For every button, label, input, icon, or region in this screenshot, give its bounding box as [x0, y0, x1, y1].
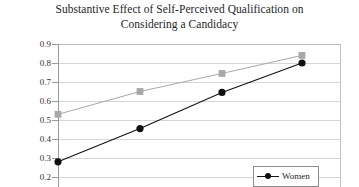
y-axis-label-0-4: 0.4	[11, 135, 51, 144]
legend-entry-women: Women	[257, 170, 310, 182]
y-axis-line	[58, 44, 59, 187]
gridline-0-5	[58, 120, 340, 121]
gridline-0-8	[58, 63, 340, 64]
y-tick-0-7	[52, 82, 58, 83]
y-axis-label-0-3: 0.3	[11, 154, 51, 163]
data-point	[219, 70, 226, 77]
data-point	[218, 89, 225, 96]
series-line-0	[58, 55, 302, 114]
y-axis-label-0-8: 0.8	[11, 59, 51, 68]
data-point	[299, 52, 306, 59]
gridline-0-7	[58, 82, 340, 83]
gridline-0-4	[58, 139, 340, 140]
data-point	[137, 88, 144, 95]
y-axis-label-0-6: 0.6	[11, 97, 51, 106]
gridline-0-9	[58, 44, 340, 45]
y-axis-label-0-9: 0.9	[11, 40, 51, 49]
y-tick-0-2	[52, 177, 58, 178]
chart-container: Substantive Effect of Self-Perceived Qua…	[0, 0, 359, 187]
gridline-0-3	[58, 158, 340, 159]
y-axis-label-0-2: 0.2	[11, 173, 51, 182]
data-point	[136, 125, 143, 132]
y-tick-0-8	[52, 63, 58, 64]
series-line-1	[58, 63, 302, 162]
y-axis-label-0-7: 0.7	[11, 78, 51, 87]
chart-title: Substantive Effect of Self-Perceived Qua…	[0, 2, 359, 32]
chart-legend: Women	[253, 166, 319, 187]
chart-title-line-2: Considering a Candidacy	[0, 17, 359, 32]
legend-marker-circle-icon	[257, 171, 279, 181]
y-tick-0-6	[52, 101, 58, 102]
y-tick-0-4	[52, 139, 58, 140]
legend-label-women: Women	[282, 171, 310, 181]
y-tick-0-3	[52, 158, 58, 159]
chart-title-line-1: Substantive Effect of Self-Perceived Qua…	[0, 2, 359, 17]
plot-right-border	[340, 44, 341, 187]
y-tick-0-5	[52, 120, 58, 121]
y-axis-label-0-5: 0.5	[11, 116, 51, 125]
y-tick-0-9	[52, 44, 58, 45]
gridline-0-6	[58, 101, 340, 102]
